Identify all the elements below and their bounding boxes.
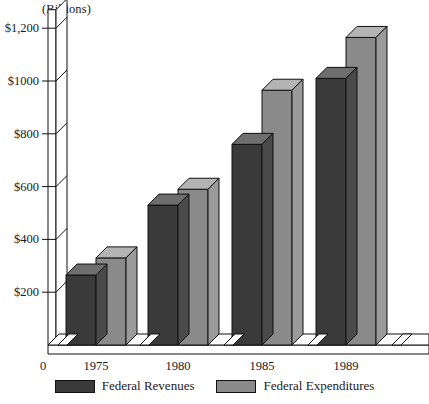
legend-entry-expenditures: Federal Expenditures <box>216 378 374 394</box>
bar-revenues-1985-front <box>232 144 262 345</box>
x-tick-label-1985: 1985 <box>220 359 304 374</box>
chart-legend: Federal RevenuesFederal Expenditures <box>0 378 429 394</box>
y-tick-label-1200: $1,200 <box>0 21 39 36</box>
bar-revenues-1980-side <box>178 194 189 345</box>
bar-revenues-1989-side <box>346 67 357 345</box>
x-axis-front-strip <box>48 345 429 354</box>
chart-canvas <box>0 0 429 404</box>
y-tick-label-400: $400 <box>0 232 39 247</box>
bar-revenues-1975-side <box>96 264 107 345</box>
y-axis-depth-face <box>56 0 67 345</box>
bar-expenditures-1975-side <box>126 247 137 345</box>
legend-swatch-expenditures <box>216 380 256 393</box>
bar-expenditures-1980-side <box>208 178 219 345</box>
legend-swatch-revenues <box>55 380 95 393</box>
federal-budget-bar-chart: (Billions) $200$400$600$800$1000$1,200 1… <box>0 0 429 404</box>
y-tick-label-200: $200 <box>0 285 39 300</box>
x-tick-label-1975: 1975 <box>54 359 138 374</box>
x-tick-label-1980: 1980 <box>136 359 220 374</box>
y-tick-label-800: $800 <box>0 126 39 141</box>
x-tick-label-1989: 1989 <box>304 359 388 374</box>
y-tick-label-600: $600 <box>0 179 39 194</box>
legend-entry-revenues: Federal Revenues <box>55 378 195 394</box>
bar-revenues-1985-side <box>262 133 273 345</box>
bar-revenues-1980-front <box>148 205 178 345</box>
legend-label-expenditures: Federal Expenditures <box>263 378 374 394</box>
bar-expenditures-1985-side <box>292 79 303 345</box>
bar-revenues-1989-front <box>316 78 346 345</box>
bar-expenditures-1989-side <box>376 26 387 345</box>
y-axis-front-face <box>48 10 56 345</box>
y-tick-label-1000: $1000 <box>0 74 39 89</box>
axis-origin-label: 0 <box>32 359 54 374</box>
legend-label-revenues: Federal Revenues <box>102 378 195 394</box>
